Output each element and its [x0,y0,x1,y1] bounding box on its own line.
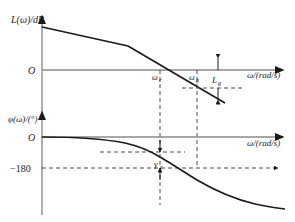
phase-margin-label: γ [154,159,158,169]
magnitude-origin-label: O [28,65,35,76]
magnitude-x-axis-label: ω/(rad/s) [247,70,280,80]
phase-margin-subscript: c [160,164,163,170]
omega-c-subscript: c [159,77,162,83]
bode-diagram-figure: L(ω)/dB O ω c ω g L g ω/(rad/s) φ(ω)/(°)… [0,0,295,222]
omega-g-label: ω [189,73,195,82]
figure-background [0,0,295,222]
omega-g-subscript: g [196,77,199,83]
phase-y-axis-label: φ(ω)/(°) [8,114,37,124]
magnitude-y-axis-label: L(ω)/dB [10,14,44,26]
phase-origin-label: O [28,132,35,143]
phase-x-axis-label: ω/(rad/s) [247,138,280,148]
omega-c-label: ω [152,73,158,82]
gain-margin-subscript: g [218,80,221,86]
gain-margin-label: L [211,75,217,85]
minus180-label: −180 [10,163,31,174]
